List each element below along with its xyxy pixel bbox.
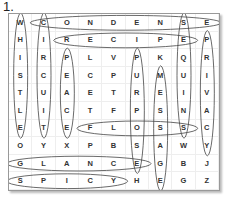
- grid-cell[interactable]: I: [32, 32, 55, 50]
- grid-cell[interactable]: P: [126, 102, 149, 120]
- grid-cell[interactable]: R: [56, 32, 79, 50]
- grid-cell[interactable]: P: [149, 32, 172, 50]
- grid-cell[interactable]: C: [196, 120, 219, 138]
- grid-cell[interactable]: C: [32, 14, 55, 32]
- grid-cell[interactable]: O: [56, 14, 79, 32]
- grid-cell[interactable]: B: [102, 137, 125, 155]
- grid-cell[interactable]: I: [32, 102, 55, 120]
- grid-cell[interactable]: A: [149, 137, 172, 155]
- grid-cell[interactable]: L: [9, 102, 32, 120]
- grid-cell[interactable]: I: [9, 49, 32, 67]
- grid-cell[interactable]: P: [102, 67, 125, 85]
- grid-cell[interactable]: Z: [196, 172, 219, 190]
- grid-cell[interactable]: C: [79, 172, 102, 190]
- grid-cell[interactable]: R: [126, 84, 149, 102]
- grid-cell[interactable]: S: [9, 67, 32, 85]
- grid-cell[interactable]: E: [196, 14, 219, 32]
- grid-cell[interactable]: E: [79, 84, 102, 102]
- grid-cell[interactable]: T: [79, 102, 102, 120]
- grid-cell[interactable]: U: [172, 67, 195, 85]
- grid-cell[interactable]: L: [102, 120, 125, 138]
- grid-cell[interactable]: H: [126, 172, 149, 190]
- grid-cell[interactable]: E: [149, 172, 172, 190]
- grid-cell[interactable]: Y: [196, 137, 219, 155]
- grid-cell[interactable]: A: [56, 155, 79, 173]
- grid-cell[interactable]: E: [56, 67, 79, 85]
- grid-cell[interactable]: R: [32, 49, 55, 67]
- grid-cell[interactable]: A: [196, 102, 219, 120]
- grid-cell[interactable]: P: [79, 137, 102, 155]
- grid-cell[interactable]: P: [56, 49, 79, 67]
- grid-cell[interactable]: F: [79, 120, 102, 138]
- grid-cell[interactable]: M: [149, 67, 172, 85]
- grid-cell[interactable]: N: [79, 14, 102, 32]
- grid-cell[interactable]: N: [172, 102, 195, 120]
- grid-cell[interactable]: G: [149, 155, 172, 173]
- grid-cell[interactable]: C: [56, 102, 79, 120]
- grid-cell[interactable]: Y: [102, 172, 125, 190]
- grid-cell[interactable]: W: [9, 14, 32, 32]
- grid-cell[interactable]: S: [172, 14, 195, 32]
- grid-cell[interactable]: J: [196, 155, 219, 173]
- grid-cell[interactable]: E: [126, 155, 149, 173]
- grid-cell[interactable]: N: [79, 155, 102, 173]
- grid-cell[interactable]: L: [79, 49, 102, 67]
- grid-cell[interactable]: W: [172, 137, 195, 155]
- grid-cell[interactable]: E: [9, 120, 32, 138]
- grid-cell[interactable]: P: [32, 172, 55, 190]
- grid-cell[interactable]: C: [79, 67, 102, 85]
- grid-cell[interactable]: N: [149, 14, 172, 32]
- grid-cell[interactable]: A: [56, 84, 79, 102]
- grid-cell[interactable]: I: [196, 67, 219, 85]
- grid-cell[interactable]: S: [9, 172, 32, 190]
- letter-grid: WCONDENSEHIRECIPEPIRPLVPKQRSCECPUMUITUAE…: [9, 14, 219, 190]
- grid-cell[interactable]: E: [172, 32, 195, 50]
- grid-cell[interactable]: P: [126, 49, 149, 67]
- grid-cell[interactable]: I: [172, 84, 195, 102]
- grid-cell[interactable]: E: [56, 120, 79, 138]
- grid-cell[interactable]: E: [126, 14, 149, 32]
- grid-cell[interactable]: L: [32, 155, 55, 173]
- grid-cell[interactable]: S: [149, 120, 172, 138]
- grid-cell[interactable]: V: [102, 49, 125, 67]
- grid-cell[interactable]: S: [149, 102, 172, 120]
- grid-cell[interactable]: U: [32, 84, 55, 102]
- grid-cell[interactable]: U: [126, 67, 149, 85]
- grid-cell[interactable]: P: [196, 32, 219, 50]
- grid-cell[interactable]: O: [9, 137, 32, 155]
- grid-cell[interactable]: T: [32, 120, 55, 138]
- grid-cell[interactable]: I: [126, 32, 149, 50]
- grid-cell[interactable]: G: [172, 172, 195, 190]
- grid-cell[interactable]: E: [149, 84, 172, 102]
- puzzle-number: 1.: [3, 0, 14, 14]
- grid-cell[interactable]: E: [79, 32, 102, 50]
- grid-cell[interactable]: C: [102, 32, 125, 50]
- word-search-board: WCONDENSEHIRECIPEPIRPLVPKQRSCECPUMUITUAE…: [8, 13, 220, 191]
- grid-cell[interactable]: T: [102, 84, 125, 102]
- grid-cell[interactable]: Y: [32, 137, 55, 155]
- grid-cell[interactable]: V: [196, 84, 219, 102]
- grid-cell[interactable]: X: [56, 137, 79, 155]
- grid-cell[interactable]: T: [9, 84, 32, 102]
- grid-cell[interactable]: Q: [172, 49, 195, 67]
- grid-cell[interactable]: C: [32, 67, 55, 85]
- grid-cell[interactable]: O: [126, 120, 149, 138]
- grid-cell[interactable]: K: [149, 49, 172, 67]
- grid-cell[interactable]: H: [9, 32, 32, 50]
- grid-cell[interactable]: I: [56, 172, 79, 190]
- grid-cell[interactable]: F: [102, 102, 125, 120]
- grid-cell[interactable]: C: [102, 155, 125, 173]
- grid-cell[interactable]: G: [9, 155, 32, 173]
- grid-cell[interactable]: S: [126, 137, 149, 155]
- grid-cell[interactable]: B: [172, 155, 195, 173]
- grid-cell[interactable]: R: [196, 49, 219, 67]
- grid-cell[interactable]: S: [172, 120, 195, 138]
- grid-cell[interactable]: D: [102, 14, 125, 32]
